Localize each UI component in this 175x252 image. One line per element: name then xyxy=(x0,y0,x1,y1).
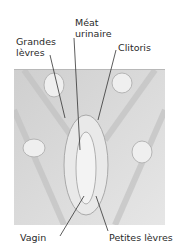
leader-line-grandes-levres xyxy=(50,55,65,118)
label-line: Méat xyxy=(75,17,112,28)
leader-line-petites-levres xyxy=(96,196,108,231)
label-meat-urinaire: Méat urinaire xyxy=(75,17,112,39)
label-clitoris: Clitoris xyxy=(118,42,151,53)
label-vagin: Vagin xyxy=(20,232,46,243)
label-line: urinaire xyxy=(75,28,112,39)
leader-line-vagin xyxy=(60,196,84,236)
leader-line-clitoris xyxy=(98,50,116,120)
label-line: lèvres xyxy=(16,47,56,58)
leader-line-meat-urinaire xyxy=(74,38,80,150)
label-grandes-levres: Grandes lèvres xyxy=(16,36,56,58)
label-petites-levres: Petites lèvres xyxy=(109,232,173,243)
label-line: Grandes xyxy=(16,36,56,47)
